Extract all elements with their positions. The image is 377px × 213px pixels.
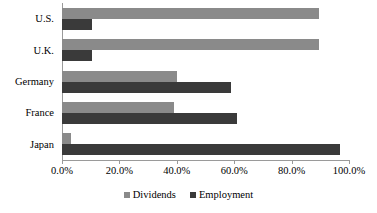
bar-group [62, 39, 349, 61]
legend-swatch-icon [124, 192, 130, 198]
y-axis-tick-label: U.S. [0, 13, 54, 24]
legend-swatch-icon [190, 192, 196, 198]
bar-group [62, 8, 349, 30]
legend-label: Employment [199, 189, 253, 201]
bar-group [62, 71, 349, 93]
x-axis-tick-label: 80.0% [262, 165, 322, 177]
legend-item-employment[interactable]: Employment [190, 189, 253, 201]
bar-employment-france[interactable] [62, 113, 237, 124]
bar-employment-us[interactable] [62, 19, 92, 30]
bar-employment-uk[interactable] [62, 50, 92, 61]
x-axis-tick-label: 40.0% [147, 165, 207, 177]
bar-employment-germany[interactable] [62, 82, 231, 93]
x-axis-tick [119, 160, 120, 164]
bar-chart: U.S. U.K. Germany France Japan 0.0%20.0%… [0, 0, 377, 213]
y-axis-tick-label: Germany [0, 76, 54, 87]
legend-label: Dividends [133, 189, 176, 201]
bar-group [62, 133, 349, 155]
x-axis-tick [62, 160, 63, 164]
y-axis-tick-label: U.K. [0, 45, 54, 56]
x-axis-tick [349, 160, 350, 164]
x-axis-tick-label: 20.0% [89, 165, 149, 177]
y-axis-tick-label: Japan [0, 139, 54, 150]
bar-dividends-japan[interactable] [62, 133, 71, 144]
y-axis-category-labels: U.S. U.K. Germany France Japan [0, 0, 58, 160]
bar-employment-japan[interactable] [62, 144, 340, 155]
bar-dividends-germany[interactable] [62, 71, 177, 82]
x-axis-tick-label: 0.0% [32, 165, 92, 177]
bar-dividends-uk[interactable] [62, 39, 319, 50]
x-axis-tick-label: 100.0% [319, 165, 377, 177]
bar-dividends-france[interactable] [62, 102, 174, 113]
chart-legend: Dividends Employment [0, 189, 377, 201]
bar-dividends-us[interactable] [62, 8, 319, 19]
x-axis-tick [234, 160, 235, 164]
legend-item-dividends[interactable]: Dividends [124, 189, 176, 201]
x-axis-tick [292, 160, 293, 164]
y-axis-tick-label: France [0, 107, 54, 118]
x-axis-line [62, 160, 350, 161]
bar-group [62, 102, 349, 124]
plot-area [62, 3, 349, 160]
x-axis-tick [177, 160, 178, 164]
x-axis-tick-label: 60.0% [204, 165, 264, 177]
